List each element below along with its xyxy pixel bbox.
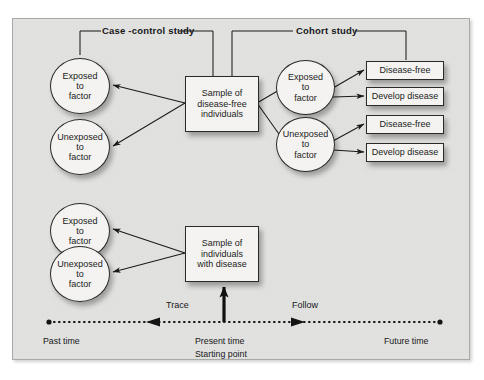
outcome-box-1-label: Disease-free [379, 65, 430, 76]
outcome-box-4-label: Develop disease [372, 147, 439, 158]
timeline-follow-label: Follow [292, 300, 318, 310]
node-retrospective-unexposed-text: Unexposed to factor [57, 259, 103, 289]
outcome-box-1[interactable]: Disease-free [366, 61, 444, 80]
node-cohort-unexposed-text: Unexposed to factor [283, 129, 329, 159]
node-cohort-exposed-text: Exposed to factor [288, 72, 323, 102]
box-sample-with-disease[interactable]: Sample of individuals with disease [185, 226, 259, 282]
arrows-outcomes [333, 70, 364, 152]
outcome-box-3-label: Disease-free [379, 119, 430, 130]
timeline-present-label: Present time [195, 336, 244, 346]
timeline-past-label: Past time [43, 336, 80, 346]
arrows-retrospective [113, 229, 185, 272]
timeline-future-label: Future time [384, 336, 429, 346]
outcome-box-2-label: Develop disease [372, 91, 439, 102]
diagram-page: Case -control study Cohort study Exposed… [0, 0, 484, 380]
outcome-box-2[interactable]: Develop disease [366, 87, 444, 106]
bracket-label-case-control: Case -control study [102, 25, 194, 36]
node-cohort-exposed[interactable]: Exposed to factor [276, 60, 335, 115]
box-sample-with-disease-text: Sample of individuals with disease [197, 238, 247, 270]
outcome-box-3[interactable]: Disease-free [366, 115, 444, 134]
node-retrospective-exposed-text: Exposed to factor [62, 216, 97, 246]
box-sample-disease-free-text: Sample of disease-free individuals [197, 88, 247, 120]
box-sample-disease-free[interactable]: Sample of disease-free individuals [185, 76, 259, 132]
timeline-starting-point-label: Starting point [195, 349, 247, 359]
node-retrospective-unexposed[interactable]: Unexposed to factor [50, 246, 110, 302]
node-case-control-exposed[interactable]: Exposed to factor [50, 58, 110, 114]
timeline-trace-label: Trace [166, 300, 189, 310]
node-cohort-unexposed[interactable]: Unexposed to factor [276, 117, 335, 172]
connector-layer [0, 0, 484, 380]
node-case-control-exposed-text: Exposed to factor [62, 71, 97, 101]
node-case-control-unexposed-text: Unexposed to factor [57, 132, 103, 162]
node-case-control-unexposed[interactable]: Unexposed to factor [50, 119, 110, 175]
outcome-box-4[interactable]: Develop disease [366, 143, 444, 162]
bracket-label-cohort: Cohort study [296, 25, 358, 36]
arrows-case-control [113, 85, 185, 146]
